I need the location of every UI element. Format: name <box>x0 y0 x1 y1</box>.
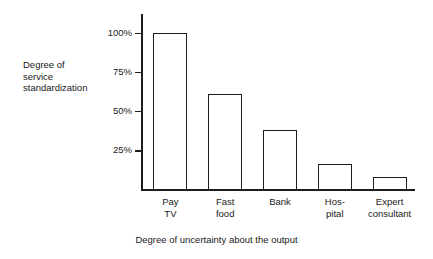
y-axis-title: Degree of service standardization <box>23 59 123 94</box>
y-axis-title-line-3: standardization <box>23 82 123 94</box>
plot-area: 25%50%75%100% <box>141 14 415 191</box>
x-axis-line <box>141 189 415 191</box>
y-axis-tick-label: 50% <box>113 105 132 116</box>
bar-series <box>141 14 415 189</box>
bar <box>153 33 187 189</box>
x-axis-category-label: Expertconsultant <box>350 196 430 219</box>
bar-chart: Degree of service standardization 25%50%… <box>0 0 433 259</box>
y-axis-tick-label: 100% <box>108 27 132 38</box>
bar <box>373 177 407 190</box>
bar <box>263 130 297 189</box>
x-axis-category-labels: PayTVFastfoodBankHos-pitalExpertconsulta… <box>141 196 415 224</box>
y-axis-tick-label: 75% <box>113 66 132 77</box>
y-axis-title-line-1: Degree of <box>23 59 123 71</box>
bar <box>318 164 352 189</box>
y-axis-tick-label: 25% <box>113 144 132 155</box>
y-axis-title-line-2: service <box>23 71 123 83</box>
x-axis-title: Degree of uncertainty about the output <box>0 234 433 246</box>
bar <box>208 94 242 189</box>
